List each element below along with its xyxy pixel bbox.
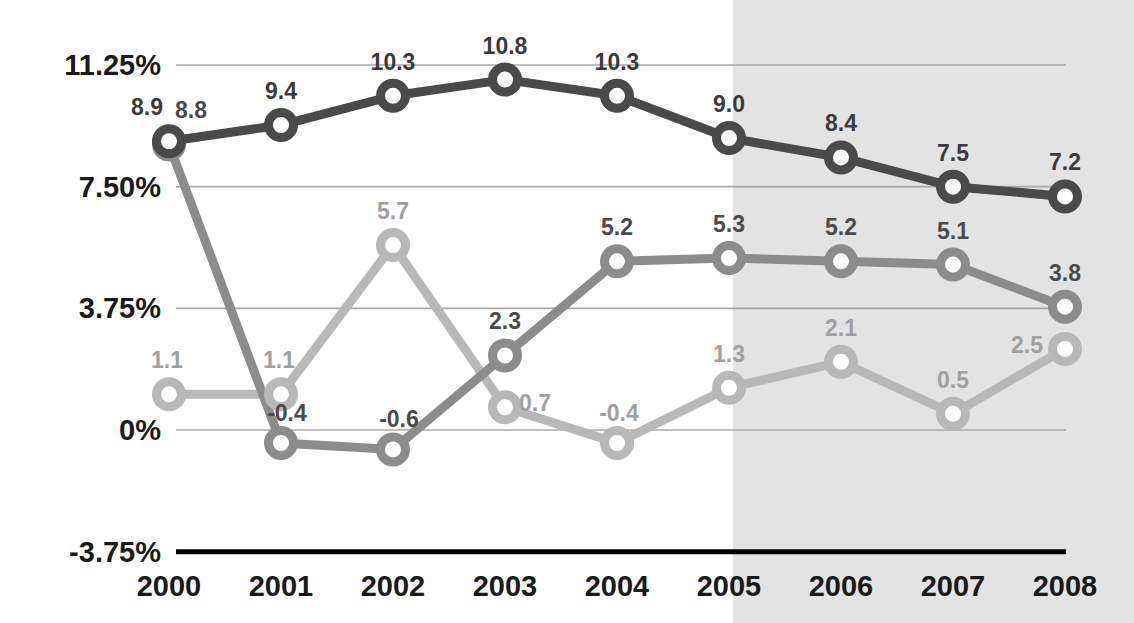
data-point-marker xyxy=(717,375,742,400)
data-point-label: 9.0 xyxy=(713,91,745,117)
data-point-marker xyxy=(493,343,518,368)
data-point-marker xyxy=(493,67,518,92)
data-point-marker xyxy=(605,83,630,108)
data-point-label: 7.5 xyxy=(937,140,969,166)
data-point-marker xyxy=(605,430,630,455)
data-point-label: 9.4 xyxy=(265,78,297,104)
y-tick-label: -3.75% xyxy=(69,536,161,568)
data-point-marker xyxy=(829,249,854,274)
data-point-marker xyxy=(381,437,406,462)
data-point-marker xyxy=(941,174,966,199)
y-tick-label: 7.50% xyxy=(79,171,161,203)
y-tick-label: 3.75% xyxy=(79,292,161,324)
x-tick-label: 2008 xyxy=(1033,570,1098,602)
data-point-label: 2.3 xyxy=(489,308,521,334)
data-point-label: 1.1 xyxy=(151,347,183,373)
data-point-label: 5.2 xyxy=(825,214,857,240)
data-point-label: 0.5 xyxy=(937,367,969,393)
x-tick-label: 2005 xyxy=(697,570,762,602)
data-point-marker xyxy=(941,252,966,277)
data-point-label: 10.3 xyxy=(371,49,416,75)
data-point-marker xyxy=(493,395,518,420)
data-point-label: -0.6 xyxy=(379,406,419,432)
data-point-label: 7.2 xyxy=(1049,149,1081,175)
data-point-label: 8.4 xyxy=(825,110,857,136)
data-point-label: 5.7 xyxy=(377,198,409,224)
data-point-marker xyxy=(269,430,294,455)
chart-container: 11.25%7.50%3.75%0%-3.75% 8.99.410.310.81… xyxy=(0,0,1134,623)
data-point-marker xyxy=(605,249,630,274)
data-point-label: 2.1 xyxy=(825,315,857,341)
data-point-marker xyxy=(829,145,854,170)
x-axis-tick-labels: 200020012002200320042005200620072008 xyxy=(137,570,1098,602)
data-point-marker xyxy=(1053,294,1078,319)
data-point-marker xyxy=(381,83,406,108)
data-point-marker xyxy=(381,233,406,258)
data-point-marker xyxy=(941,401,966,426)
data-point-label: 10.8 xyxy=(483,33,528,59)
x-tick-label: 2002 xyxy=(361,570,426,602)
data-point-marker xyxy=(829,349,854,374)
data-point-label: 1.3 xyxy=(713,341,745,367)
data-point-label: 0.7 xyxy=(519,390,551,416)
y-tick-label: 0% xyxy=(119,414,161,446)
data-point-marker xyxy=(157,129,182,154)
data-point-marker xyxy=(717,246,742,271)
data-point-label: 3.8 xyxy=(1049,260,1081,286)
line-chart: 11.25%7.50%3.75%0%-3.75% 8.99.410.310.81… xyxy=(0,0,1134,623)
data-point-marker xyxy=(1053,184,1078,209)
data-point-label: -0.4 xyxy=(599,400,639,426)
data-point-marker xyxy=(717,126,742,151)
data-point-label: 5.3 xyxy=(713,211,745,237)
data-point-label: 8.9 xyxy=(131,94,163,120)
data-point-label: -0.4 xyxy=(267,400,307,426)
x-tick-label: 2007 xyxy=(921,570,986,602)
x-tick-label: 2003 xyxy=(473,570,538,602)
data-point-marker xyxy=(1053,336,1078,361)
y-axis-tick-labels: 11.25%7.50%3.75%0%-3.75% xyxy=(64,49,161,568)
data-point-marker xyxy=(269,113,294,138)
data-point-label: 8.8 xyxy=(175,97,207,123)
data-point-label: 5.2 xyxy=(601,214,633,240)
data-point-marker xyxy=(157,382,182,407)
y-tick-label: 11.25% xyxy=(64,49,161,81)
x-tick-label: 2006 xyxy=(809,570,874,602)
x-tick-label: 2000 xyxy=(137,570,202,602)
data-point-label: 1.1 xyxy=(263,347,295,373)
data-point-label: 5.1 xyxy=(937,218,969,244)
data-point-label: 2.5 xyxy=(1011,332,1043,358)
data-point-label: 10.3 xyxy=(595,49,640,75)
x-tick-label: 2001 xyxy=(249,570,314,602)
x-tick-label: 2004 xyxy=(585,570,650,602)
